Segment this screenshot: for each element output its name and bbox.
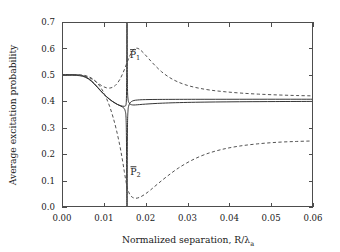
axis-ticks [62,22,314,208]
curve-P2-solid [62,75,127,207]
y-tick-labels: 0.00.10.20.30.40.50.60.7 [41,17,55,212]
y-tick-label-5: 0.5 [41,70,55,80]
curve-label-p1: P1 [130,49,141,63]
chart-canvas: 0.000.010.020.030.040.050.06 0.00.10.20.… [0,0,340,252]
curve-label-p2: P2 [130,166,141,180]
y-tick-label-1: 0.1 [41,176,55,186]
x-tick-label-0: 0.00 [52,213,71,223]
curve-P1-solid [62,22,127,106]
x-axis-title: Normalized separation, R/λa [122,234,254,248]
y-tick-label-2: 0.2 [41,149,55,159]
plot-frame [63,23,313,207]
y-tick-label-7: 0.7 [41,17,55,27]
x-tick-label-1: 0.01 [94,213,113,223]
y-axis-title: Average excitation probability [7,44,18,186]
figure-container: 0.000.010.020.030.040.050.06 0.00.10.20.… [0,0,340,252]
x-tick-label-5: 0.05 [262,213,281,223]
y-tick-label-3: 0.3 [41,123,55,133]
curve-label-p1-text: P1 [130,49,141,63]
curve-P1-dashed [62,48,313,96]
y-tick-label-0: 0.0 [41,202,55,212]
y-tick-label-6: 0.6 [41,44,55,54]
y-tick-label-4: 0.4 [41,96,55,106]
x-tick-label-3: 0.03 [178,213,197,223]
curve-P2-solid-right [127,99,313,207]
x-tick-labels: 0.000.010.020.030.040.050.06 [52,213,322,223]
axis-frame [63,23,313,207]
curve-P2-dashed [62,75,313,199]
x-tick-label-2: 0.02 [136,213,155,223]
x-tick-label-6: 0.06 [303,213,322,223]
x-tick-label-4: 0.04 [220,213,240,223]
curve-P1-solid-right [127,22,313,105]
curve-label-p2-text: P2 [130,166,141,180]
data-curves [62,22,313,207]
curve-annotations: P1P2 [130,49,141,180]
